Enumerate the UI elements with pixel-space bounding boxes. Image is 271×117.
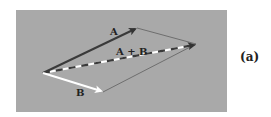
panel-label: (a) <box>240 50 259 64</box>
label-sum: A + B <box>115 46 148 57</box>
diagram-panel <box>16 10 227 112</box>
label-b: B <box>76 87 84 98</box>
vector-addition-diagram: A A + B B <box>0 0 271 117</box>
label-a: A <box>109 26 118 37</box>
